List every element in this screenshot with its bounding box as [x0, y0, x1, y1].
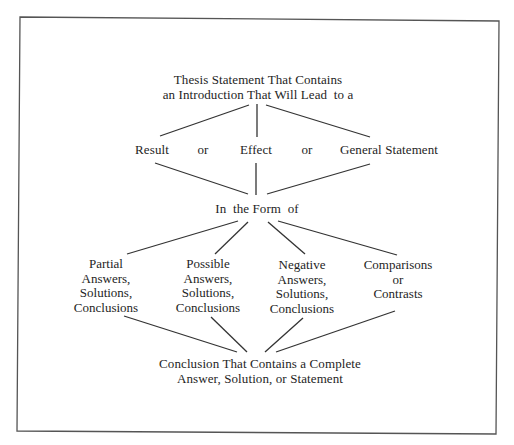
col-line: Answers, [74, 272, 138, 287]
comparisons-contrasts-node: Comparisons or Contrasts [364, 258, 433, 302]
col-line: Partial [74, 257, 138, 272]
partial-answers-node: Partial Answers, Solutions, Conclusions [74, 257, 138, 315]
effect-node: Effect [240, 142, 272, 157]
negative-answers-node: Negative Answers, Solutions, Conclusions [270, 258, 334, 316]
thesis-line-1: Thesis Statement That Contains [163, 72, 354, 87]
col-line: Solutions, [176, 286, 240, 301]
or-connector-1: or [197, 142, 208, 157]
col-line: Negative [270, 258, 334, 273]
general-statement-node: General Statement [340, 142, 438, 157]
conclusion-merge [124, 311, 395, 352]
col-line: Solutions, [74, 286, 138, 301]
col-line: Solutions, [270, 287, 334, 302]
possible-answers-node: Possible Answers, Solutions, Conclusions [176, 257, 240, 315]
col-line: Possible [176, 257, 240, 272]
middle-merge [155, 163, 370, 195]
col-line: or [364, 273, 433, 288]
conclusion-line-1: Conclusion That Contains a Complete [159, 356, 361, 371]
thesis-statement-node: Thesis Statement That Contains an Introd… [163, 72, 354, 102]
junction-fanout [127, 221, 397, 255]
title-branches [160, 104, 370, 137]
col-line: Comparisons [364, 258, 433, 273]
col-line: Conclusions [270, 302, 334, 317]
col-line: Conclusions [74, 301, 138, 316]
conclusion-node: Conclusion That Contains a Complete Answ… [159, 356, 361, 386]
thesis-line-2: an Introduction That Will Lead to a [163, 87, 354, 102]
conclusion-line-2: Answer, Solution, or Statement [159, 371, 361, 386]
col-line: Answers, [176, 272, 240, 287]
col-line: Answers, [270, 273, 334, 288]
col-line: Conclusions [176, 301, 240, 316]
col-line: Contrasts [364, 287, 433, 302]
or-connector-2: or [301, 142, 312, 157]
in-the-form-of-node: In the Form of [215, 201, 299, 216]
result-node: Result [135, 142, 169, 157]
